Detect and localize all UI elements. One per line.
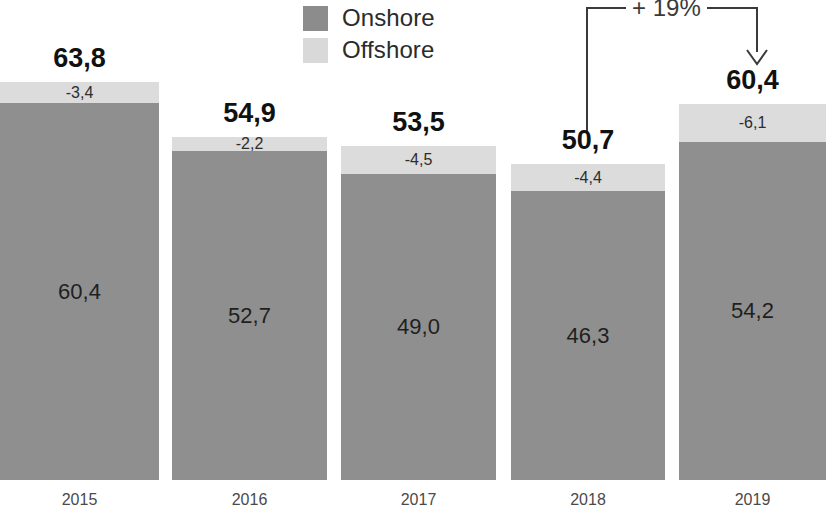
bar-total-label-2018: 50,7 bbox=[511, 127, 665, 154]
x-axis-label-2016: 2016 bbox=[172, 492, 327, 508]
bar-segment-offshore-2016: -2,2 bbox=[172, 137, 327, 151]
bar-segment-onshore-2015: 60,4 bbox=[0, 103, 159, 480]
bar-segment-offshore-label-2015: -3,4 bbox=[66, 85, 94, 101]
bar-segment-offshore-2018: -4,4 bbox=[511, 164, 665, 191]
bar-segment-offshore-label-2019: -6,1 bbox=[739, 115, 767, 131]
bar-segment-offshore-label-2018: -4,4 bbox=[574, 170, 602, 186]
bar-group-2018: 50,7-4,446,32018 bbox=[511, 164, 665, 480]
bar-total-label-2019: 60,4 bbox=[679, 67, 826, 94]
bar-segment-onshore-label-2017: 49,0 bbox=[341, 316, 496, 338]
bar-segment-offshore-2015: -3,4 bbox=[0, 82, 159, 103]
bar-segment-onshore-2019: 54,2 bbox=[679, 142, 826, 480]
x-axis-label-2015: 2015 bbox=[0, 492, 159, 508]
chart-legend: Onshore Offshore bbox=[303, 2, 553, 66]
bar-segment-offshore-label-2016: -2,2 bbox=[236, 136, 264, 152]
growth-annotation-label: + 19% bbox=[626, 0, 707, 20]
bar-segment-onshore-label-2019: 54,2 bbox=[679, 300, 826, 322]
legend-label-onshore: Onshore bbox=[342, 6, 435, 30]
bar-segment-onshore-2016: 52,7 bbox=[172, 151, 327, 480]
bar-segment-onshore-label-2016: 52,7 bbox=[172, 305, 327, 327]
stacked-bar-chart: Onshore Offshore + 19% 63,8-3,460,420155… bbox=[0, 0, 826, 513]
bar-group-2017: 53,5-4,549,02017 bbox=[341, 146, 496, 480]
bar-group-2019: 60,4-6,154,22019 bbox=[679, 104, 826, 480]
legend-label-offshore: Offshore bbox=[342, 38, 434, 62]
bar-segment-offshore-2019: -6,1 bbox=[679, 104, 826, 142]
bar-group-2015: 63,8-3,460,42015 bbox=[0, 82, 159, 480]
legend-item-offshore: Offshore bbox=[303, 34, 553, 66]
bar-segment-onshore-label-2015: 60,4 bbox=[0, 281, 159, 303]
bar-segment-offshore-2017: -4,5 bbox=[341, 146, 496, 174]
bar-stack-2015: -3,460,4 bbox=[0, 82, 159, 480]
bar-stack-2017: -4,549,0 bbox=[341, 146, 496, 480]
legend-swatch-onshore-icon bbox=[303, 6, 328, 31]
bar-stack-2016: -2,252,7 bbox=[172, 137, 327, 480]
bar-stack-2019: -6,154,2 bbox=[679, 104, 826, 480]
x-axis-label-2019: 2019 bbox=[679, 492, 826, 508]
bar-segment-onshore-2018: 46,3 bbox=[511, 191, 665, 480]
bar-total-label-2016: 54,9 bbox=[172, 100, 327, 127]
bar-segment-onshore-label-2018: 46,3 bbox=[511, 325, 665, 347]
bar-segment-onshore-2017: 49,0 bbox=[341, 174, 496, 480]
bar-total-label-2015: 63,8 bbox=[0, 45, 159, 72]
bar-segment-offshore-label-2017: -4,5 bbox=[405, 152, 433, 168]
x-axis-label-2018: 2018 bbox=[511, 492, 665, 508]
legend-swatch-offshore-icon bbox=[303, 38, 328, 63]
x-axis-label-2017: 2017 bbox=[341, 492, 496, 508]
legend-item-onshore: Onshore bbox=[303, 2, 553, 34]
bar-group-2016: 54,9-2,252,72016 bbox=[172, 137, 327, 480]
bar-total-label-2017: 53,5 bbox=[341, 109, 496, 136]
bar-stack-2018: -4,446,3 bbox=[511, 164, 665, 480]
